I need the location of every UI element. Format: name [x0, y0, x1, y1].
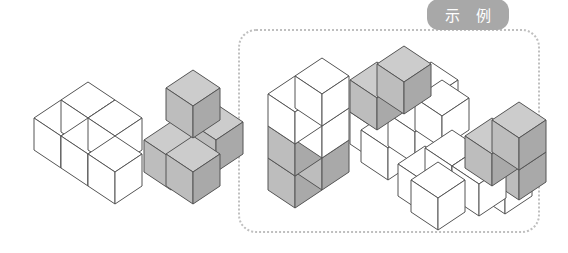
figure-tall-white-gray-tower [268, 58, 349, 208]
illustration-stage: 示 例 .o{stroke:#555555;stroke-width:1;str… [0, 0, 568, 253]
figure-gray-l-block [144, 70, 243, 204]
figure-white-row-block [34, 82, 142, 204]
cube-figures-svg: .o{stroke:#555555;stroke-width:1;stroke-… [0, 0, 568, 253]
